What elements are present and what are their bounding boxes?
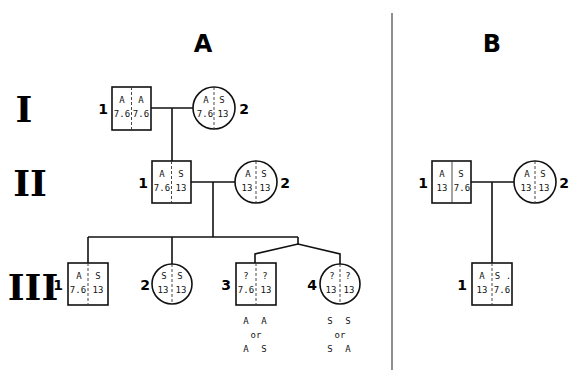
- individual-number: 2: [239, 101, 249, 117]
- individual-number: 3: [221, 277, 231, 293]
- pedigree-b: A S 13 7.6 1 A S 13 13 2 A S . 13 7.6 1: [418, 161, 569, 305]
- marker-label: 13: [176, 285, 187, 295]
- individual-number: 1: [98, 101, 108, 117]
- allele-label: A: [479, 271, 485, 281]
- marker-label: 7.6: [238, 285, 254, 295]
- generation-label-ii: II: [13, 162, 47, 204]
- allele-label: S: [219, 95, 224, 105]
- allele-label: S: [95, 271, 100, 281]
- individual-a-iii-3[interactable]: ? ? 7.6 13 3: [221, 263, 276, 305]
- marker-label: 13: [93, 285, 104, 295]
- individual-a-iii-1[interactable]: A S 7.6 13 1: [53, 263, 108, 305]
- allele-label: S .: [495, 271, 511, 281]
- alt-allele: A: [243, 316, 249, 326]
- alternatives-a-iii-4: S S or S A: [327, 316, 351, 354]
- individual-number: 1: [138, 175, 148, 191]
- marker-label: 7.6: [197, 109, 213, 119]
- allele-label: S: [261, 169, 266, 179]
- individual-number: 1: [457, 277, 467, 293]
- marker-label: 7.6: [494, 285, 510, 295]
- allele-label: A: [524, 169, 530, 179]
- individual-number: 1: [53, 277, 63, 293]
- generation-label-iii: III: [8, 266, 59, 308]
- marker-label: 13: [218, 109, 229, 119]
- marker-label: 13: [521, 183, 532, 193]
- marker-label: 7.6: [114, 109, 130, 119]
- allele-label: ?: [243, 271, 248, 281]
- allele-label: A: [138, 95, 144, 105]
- marker-label: 13: [539, 183, 550, 193]
- individual-a-iii-4[interactable]: ? ? 13 13 4: [307, 264, 360, 304]
- panel-title-a: A: [194, 30, 213, 58]
- individual-b-ii-1[interactable]: A S 13 7.6 1: [418, 161, 471, 203]
- marker-label: 7.6: [154, 183, 170, 193]
- male-square: [432, 161, 471, 203]
- allele-label: ?: [329, 271, 334, 281]
- alt-allele: S: [327, 344, 332, 354]
- allele-label: A: [76, 271, 82, 281]
- individual-a-iii-2[interactable]: S S 13 13 2: [140, 264, 192, 304]
- allele-label: A: [159, 169, 165, 179]
- alt-allele: A: [261, 316, 267, 326]
- individual-number: 4: [307, 277, 317, 293]
- individual-a-i-1[interactable]: A A 7.6 7.6 1: [98, 87, 151, 130]
- or-label: or: [335, 330, 346, 340]
- marker-label: 13: [437, 183, 448, 193]
- marker-label: 13: [326, 285, 337, 295]
- generation-label-i: I: [16, 88, 33, 130]
- alt-allele: S: [261, 344, 266, 354]
- marker-label: 13: [158, 285, 169, 295]
- allele-label: S: [458, 169, 463, 179]
- individual-a-ii-2[interactable]: A S 13 13 2: [235, 161, 290, 203]
- individual-b-iii-1[interactable]: A S . 13 7.6 1: [457, 263, 512, 305]
- marker-label: 7.6: [454, 183, 470, 193]
- allele-label: S: [161, 271, 166, 281]
- marker-label: 13: [344, 285, 355, 295]
- individual-a-ii-1[interactable]: A S 7.6 13 1: [138, 161, 191, 203]
- marker-label: 7.6: [70, 285, 86, 295]
- pedigree-a: A A 7.6 7.6 1 A S 7.6 13 2 A S 7.6 13 1: [53, 87, 360, 354]
- alternatives-a-iii-3: A A or A S: [243, 316, 267, 354]
- individual-number: 2: [140, 277, 150, 293]
- marker-label: 13: [242, 183, 253, 193]
- alt-allele: S: [345, 316, 350, 326]
- individual-number: 2: [559, 175, 569, 191]
- allele-label: S: [178, 169, 183, 179]
- twin-branch: [255, 244, 340, 264]
- individual-number: 1: [418, 175, 428, 191]
- allele-label: A: [439, 169, 445, 179]
- marker-label: 13: [477, 285, 488, 295]
- marker-label: 13: [176, 183, 187, 193]
- marker-label: 13: [260, 183, 271, 193]
- allele-label: A: [119, 95, 125, 105]
- allele-label: S: [540, 169, 545, 179]
- alt-allele: A: [345, 344, 351, 354]
- allele-label: S: [177, 271, 182, 281]
- marker-label: 7.6: [133, 109, 149, 119]
- individual-number: 2: [280, 175, 290, 191]
- or-label: or: [251, 330, 262, 340]
- allele-label: A: [203, 95, 209, 105]
- individual-a-i-2[interactable]: A S 7.6 13 2: [193, 87, 249, 129]
- marker-label: 13: [261, 285, 272, 295]
- panel-title-b: B: [483, 30, 501, 58]
- individual-b-ii-2[interactable]: A S 13 13 2: [514, 161, 569, 203]
- pedigree-figure: A B I II III A A 7.6 7.6 1 A S 7.6 13 2: [0, 0, 577, 380]
- allele-label: ?: [262, 271, 267, 281]
- alt-allele: S: [327, 316, 332, 326]
- alt-allele: A: [243, 344, 249, 354]
- allele-label: A: [245, 169, 251, 179]
- allele-label: ?: [345, 271, 350, 281]
